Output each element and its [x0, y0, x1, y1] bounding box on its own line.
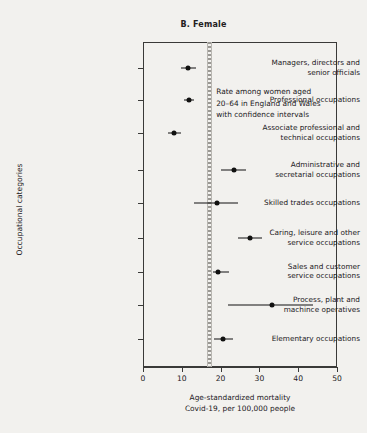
x-axis-title-line-1: Age-standardized mortality — [143, 392, 337, 403]
y-category-label: Associate professional andtechnical occu… — [232, 123, 367, 142]
y-axis-tick — [138, 238, 143, 239]
x-axis-tick — [221, 367, 222, 372]
data-point-marker — [220, 336, 225, 341]
data-point-marker — [186, 97, 191, 102]
y-category-label: Managers, directors andsenior officials — [232, 58, 367, 77]
y-category-label-line: technical occupations — [232, 133, 360, 143]
data-point-marker — [231, 168, 236, 173]
y-category-label-line: secretarial occupations — [232, 170, 360, 180]
x-axis-line — [143, 367, 337, 368]
y-category-label-line: Skilled trades occupations — [232, 198, 360, 208]
data-point-marker — [248, 236, 253, 241]
x-axis-tick-label: 10 — [177, 374, 187, 383]
x-axis-tick — [182, 367, 183, 372]
y-category-label-line: Elementary occupations — [232, 334, 360, 344]
panel-title: B. Female — [0, 20, 367, 29]
y-category-label-line: Managers, directors and — [232, 58, 360, 68]
x-axis-tick-label: 20 — [216, 374, 226, 383]
y-category-label: Sales and customerservice occupations — [232, 262, 367, 281]
y-axis-title: Occupational categories — [15, 140, 24, 280]
x-axis-tick — [337, 367, 338, 372]
y-category-label-line: Professional occupations — [232, 95, 360, 105]
data-point-marker — [216, 269, 221, 274]
y-axis-tick — [138, 339, 143, 340]
y-axis-tick — [138, 100, 143, 101]
y-category-label-line: senior officials — [232, 68, 360, 78]
reference-line — [207, 42, 212, 367]
y-axis-tick — [138, 203, 143, 204]
y-category-label-line: Administrative and — [232, 160, 360, 170]
y-category-label: Professional occupations — [232, 95, 367, 105]
y-category-label-line: service occupations — [232, 272, 360, 282]
y-category-label-line: Associate professional and — [232, 123, 360, 133]
data-point-marker — [186, 66, 191, 71]
x-axis-tick — [298, 367, 299, 372]
y-axis-tick — [138, 305, 143, 306]
data-point-marker — [269, 303, 274, 308]
x-axis-title: Age-standardized mortality Covid-19, per… — [143, 392, 337, 414]
y-axis-tick — [138, 170, 143, 171]
y-category-label-line: Sales and customer — [232, 262, 360, 272]
y-category-label: Administrative andsecretarial occupation… — [232, 160, 367, 179]
x-axis-tick-label: 30 — [255, 374, 265, 383]
annotation-line-3: with confidence intervals — [216, 109, 366, 121]
x-axis-tick-label: 40 — [293, 374, 303, 383]
y-category-label: Skilled trades occupations — [232, 198, 367, 208]
data-point-marker — [172, 131, 177, 136]
y-category-label-line: machince operatives — [232, 305, 360, 315]
data-point-marker — [214, 201, 219, 206]
y-axis-tick — [138, 68, 143, 69]
x-axis-tick-label: 0 — [141, 374, 146, 383]
y-axis-tick — [138, 133, 143, 134]
x-axis-title-line-2: Covid-19, per 100,000 people — [143, 403, 337, 414]
y-axis-tick — [138, 272, 143, 273]
x-axis-tick — [259, 367, 260, 372]
x-axis-tick-label: 50 — [332, 374, 342, 383]
y-category-label: Elementary occupations — [232, 334, 367, 344]
x-axis-tick — [143, 367, 144, 372]
